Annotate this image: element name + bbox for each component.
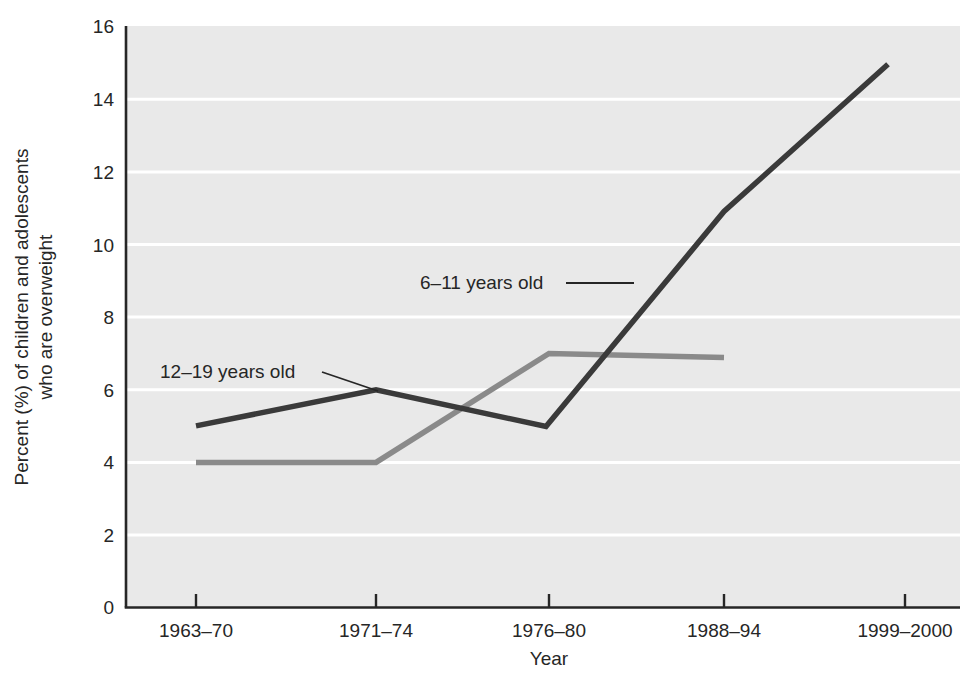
line-chart: 16 14 12 10 8 6 4 2 0 1963–70 1971–74 19…: [0, 0, 969, 680]
annotation-label-12-19-years-old: 12–19 years old: [160, 361, 295, 382]
ytick-label-10: 10: [93, 235, 114, 256]
x-axis-title: Year: [530, 648, 569, 669]
ytick-label-0: 0: [103, 597, 114, 618]
ytick-label-4: 4: [103, 452, 114, 473]
ytick-label-2: 2: [103, 525, 114, 546]
y-axis-title: Percent (%) of children and adolescents …: [11, 149, 56, 486]
ytick-label-12: 12: [93, 162, 114, 183]
xtick-label-1971-74: 1971–74: [339, 620, 413, 641]
ytick-label-14: 14: [93, 89, 115, 110]
y-axis-title-line-2: who are overweight: [35, 234, 56, 400]
y-axis-title-line-1: Percent (%) of children and adolescents: [11, 149, 32, 486]
ytick-label-8: 8: [103, 307, 114, 328]
x-axis-tick-labels: 1963–70 1971–74 1976–80 1988–94 1999–200…: [159, 620, 953, 641]
ytick-label-16: 16: [93, 16, 114, 37]
xtick-label-1988-94: 1988–94: [687, 620, 761, 641]
xtick-label-1976-80: 1976–80: [512, 620, 586, 641]
annotation-label-6-11-years-old: 6–11 years old: [420, 272, 543, 293]
chart-figure: 16 14 12 10 8 6 4 2 0 1963–70 1971–74 19…: [0, 0, 969, 680]
xtick-label-1963-70: 1963–70: [159, 620, 233, 641]
xtick-label-1999-2000: 1999–2000: [857, 620, 952, 641]
y-axis-tick-labels: 16 14 12 10 8 6 4 2 0: [93, 16, 115, 618]
ytick-label-6: 6: [103, 380, 114, 401]
